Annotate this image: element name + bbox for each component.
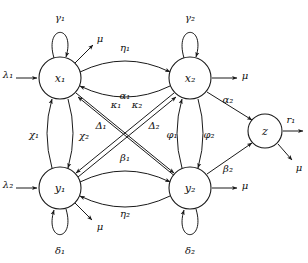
- edge-label-phi1: φ₁: [166, 129, 177, 140]
- edge-label-lambda1: λ₁: [2, 69, 13, 80]
- edge-label-mu-x2: μ: [242, 70, 249, 81]
- self-loop-y1: [52, 209, 68, 235]
- edge-label-Delta2: Δ₂: [147, 120, 159, 131]
- edge-label-beta2: β₂: [222, 163, 233, 174]
- edge-x1-to-x2: [80, 61, 170, 72]
- node-label-x1: x₁: [55, 72, 66, 85]
- edge-label-beta1: β₁: [119, 152, 130, 163]
- edge-label-mu-y2: μ: [242, 180, 249, 191]
- edge-label-r1: r₁: [287, 114, 296, 125]
- edge-label-eta1: η₁: [120, 42, 130, 53]
- edge-label-gamma1: γ₁: [55, 12, 65, 23]
- edge-y1-to-y2: [80, 171, 170, 182]
- node-label-y1: y₁: [54, 182, 66, 195]
- edge-label-phi2: φ₂: [203, 129, 214, 140]
- outflow-arrow-y1-mu: [75, 203, 92, 220]
- edge-x1-to-y1: [68, 99, 73, 168]
- node-label-x2: x₂: [185, 72, 196, 85]
- edge-y1-to-x1: [47, 99, 52, 168]
- edge-label-delta2: δ₂: [185, 245, 195, 256]
- diagram-canvas: x₁ x₂ y₁ y₂ z γ₁ γ₂ δ₁ δ₂ λ₁ λ₂ μ μ μ μ …: [0, 0, 308, 263]
- edge-x2-to-y2: [198, 99, 203, 168]
- edge-label-mu-y1: μ: [97, 221, 104, 232]
- outflow-arrow-z-mu: [278, 144, 292, 160]
- node-label-z: z: [261, 125, 268, 138]
- edge-label-mu-x1: μ: [97, 33, 104, 44]
- transition-diagram: x₁ x₂ y₁ y₂ z γ₁ γ₂ δ₁ δ₂ λ₁ λ₂ μ μ μ μ …: [0, 0, 308, 263]
- edge-y2-to-x2: [177, 99, 182, 168]
- self-loop-x1: [52, 32, 68, 58]
- edge-label-kappa1: κ₁: [110, 99, 122, 110]
- edge-label-delta1: δ₁: [55, 245, 65, 256]
- edge-label-mu-z: μ: [296, 162, 303, 173]
- edge-label-lambda2: λ₂: [2, 179, 13, 190]
- edge-label-chi2: χ₂: [78, 130, 89, 141]
- edge-y2-to-y1: [80, 196, 170, 207]
- self-loop-y2: [182, 209, 198, 235]
- edge-label-chi1: χ₁: [28, 129, 39, 140]
- edge-label-alpha2: α₂: [223, 94, 234, 105]
- outflow-arrow-x1-mu: [75, 45, 93, 63]
- edge-label-gamma2: γ₂: [185, 12, 195, 23]
- edge-label-Delta1: Δ₁: [94, 120, 106, 131]
- node-label-y2: y₂: [184, 182, 196, 195]
- self-loop-x2: [182, 32, 198, 58]
- edge-label-kappa2: κ₂: [131, 99, 143, 110]
- edge-label-eta2: η₂: [120, 208, 130, 219]
